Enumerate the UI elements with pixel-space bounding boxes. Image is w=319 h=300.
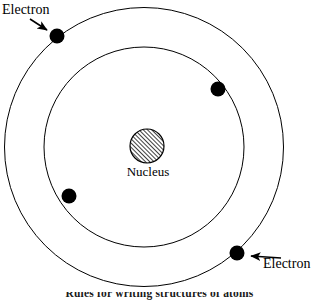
figure-caption-clip: Rules for writing structures of atoms [0, 292, 319, 300]
nucleus-circle [130, 129, 164, 163]
electron-label-bottom-right: Electron [263, 256, 310, 271]
electron-inner-bottom-left [62, 189, 77, 204]
figure-caption: Rules for writing structures of atoms [0, 292, 319, 299]
electron-inner-top-right [211, 82, 226, 97]
electron-outer-bottom-right [230, 246, 245, 261]
nucleus-label: Nucleus [127, 164, 170, 179]
atom-diagram-figure: Nucleus Electron Electron Rules for writ… [0, 0, 319, 300]
electron-top-left-arrow-icon [30, 19, 47, 30]
atom-diagram-canvas: Nucleus Electron Electron [0, 0, 319, 300]
electron-label-top-left: Electron [2, 2, 49, 17]
electron-outer-top-left [50, 29, 65, 44]
